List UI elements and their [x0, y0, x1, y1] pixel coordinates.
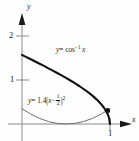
- x-axis-arrowhead: [120, 121, 132, 128]
- parabola-label-eq: = 1.4: [31, 96, 46, 105]
- curve-label-arccos: y= cos−1 x: [56, 46, 85, 53]
- x-tick-label-1: 1: [108, 129, 112, 138]
- parabola-open-paren: (: [46, 96, 48, 106]
- y-axis-arrowhead: [19, 13, 26, 25]
- parabola-minus-sign: −: [52, 96, 56, 105]
- intersection-point-marker: [105, 108, 110, 113]
- fraction-numerator: 1: [56, 94, 60, 100]
- curve-parabola: [22, 109, 110, 124]
- curve-arccos: [22, 55, 110, 124]
- y-tick-label-2: 2: [9, 31, 13, 40]
- parabola-exponent: 2: [63, 95, 66, 101]
- arccos-label-exponent: −1: [75, 44, 81, 50]
- parabola-close-paren: ): [61, 96, 63, 106]
- parabola-fraction: 12: [56, 94, 60, 107]
- arccos-label-eq: = cos: [59, 45, 75, 54]
- plot-canvas: [0, 0, 139, 141]
- fraction-denominator: 2: [56, 100, 60, 107]
- math-figure: y x 2 1 1 y= cos−1 x y= 1.4(x−12)2: [0, 0, 139, 141]
- y-tick-label-1: 1: [10, 75, 14, 84]
- arccos-label-arg: x: [82, 45, 85, 54]
- y-axis-label: y: [27, 3, 31, 11]
- curve-label-parabola: y= 1.4(x−12)2: [28, 94, 65, 107]
- x-axis-label: x: [132, 116, 136, 124]
